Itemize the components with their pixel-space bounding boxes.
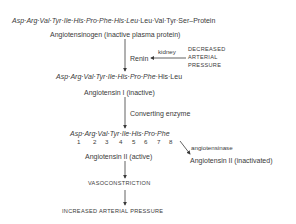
vasoconstriction-label: VASOCONSTRICTION xyxy=(88,181,151,187)
angiotensin-i-label: Angiotensin I (inactive) xyxy=(84,89,155,96)
position-number: 8 xyxy=(169,139,172,145)
angiotensin-ii-label: Angiotensin II (active) xyxy=(85,153,152,160)
arrow-diagonal-angiotensinase xyxy=(180,141,190,154)
position-number: 1 xyxy=(77,139,80,145)
increased-arterial-pressure-label: INCREASED ARTERIAL PRESSURE xyxy=(62,209,163,215)
position-number: 2 xyxy=(93,139,96,145)
angiotensin-ii-sequence: Asp·Arg·Val·Tyr·Ile·His·Pro·Phe xyxy=(70,130,170,137)
kidney-label: kidney xyxy=(158,49,176,55)
decreased-label: DECREASED xyxy=(188,47,226,53)
position-number: 7 xyxy=(157,139,160,145)
angiotensin-i-sequence-italic: Asp·Arg·Val·Tyr·Ile·His·Pro·Phe xyxy=(56,73,156,80)
angiotensinogen-sequence-rest: ·Leu·Val·Tyr·Ser–Protein xyxy=(138,17,215,24)
angiotensinogen-sequence-italic: Asp·Arg·Val·Tyr·Ile·His·Pro·Phe·His·Leu xyxy=(12,17,138,24)
renin-angiotensin-diagram: Asp·Arg·Val·Tyr·Ile·His·Pro·Phe·His·Leu·… xyxy=(0,0,296,224)
position-number: 6 xyxy=(144,139,147,145)
position-number: 3 xyxy=(105,139,108,145)
position-number: 5 xyxy=(132,139,135,145)
position-number: 4 xyxy=(119,139,122,145)
arterial-label: ARTERIAL xyxy=(188,55,218,61)
angiotensinogen-label: Angiotensinogen (inactive plasma protein… xyxy=(50,31,180,38)
angiotensin-i-sequence: Asp·Arg·Val·Tyr·Ile·His·Pro·Phe·His·Leu xyxy=(56,73,182,80)
renin-label: Renin xyxy=(130,55,148,62)
angiotensinogen-sequence: Asp·Arg·Val·Tyr·Ile·His·Pro·Phe·His·Leu·… xyxy=(12,17,215,24)
converting-enzyme-label: Converting enzyme xyxy=(130,110,190,117)
angiotensinase-label: angiotensinase xyxy=(191,145,233,151)
angiotensin-i-sequence-rest: ·His·Leu xyxy=(156,73,182,80)
angiotensin-ii-inactivated-label: Angiotensin II (inactivated) xyxy=(190,157,273,164)
pressure-label: PRESSURE xyxy=(188,63,221,69)
